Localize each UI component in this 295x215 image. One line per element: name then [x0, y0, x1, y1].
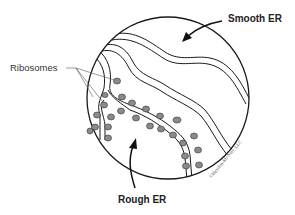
ribosome: [180, 140, 187, 146]
ribosome: [196, 162, 203, 168]
ribosome: [133, 115, 140, 121]
ribosome: [102, 92, 108, 97]
ribosome: [129, 100, 136, 106]
ribosome: [108, 114, 115, 120]
ribosome: [183, 163, 190, 169]
smooth-er-label: Smooth ER: [228, 13, 282, 24]
ribosome: [118, 108, 125, 114]
ribosome: [94, 112, 101, 118]
ribosome: [105, 135, 112, 141]
er-diagram: Smooth ER Rough ER Ribosomes ©Hayden-McN…: [0, 0, 295, 215]
ribosome: [173, 117, 181, 123]
ribosome: [147, 123, 154, 129]
ribosome: [101, 102, 108, 108]
rough-er-label: Rough ER: [118, 194, 166, 205]
ribosome: [157, 113, 164, 119]
ribosome: [170, 132, 177, 138]
ribosome: [195, 147, 202, 153]
ribosome: [191, 133, 198, 139]
ribosome: [143, 106, 150, 112]
ribosome: [119, 94, 126, 100]
ribosome: [87, 128, 93, 134]
ribosome: [158, 126, 165, 132]
ribosome: [105, 124, 112, 130]
ribosome: [114, 78, 121, 84]
ribosome: [182, 153, 189, 159]
er-illustration: [0, 0, 295, 215]
ribosomes-label: Ribosomes: [10, 62, 58, 73]
